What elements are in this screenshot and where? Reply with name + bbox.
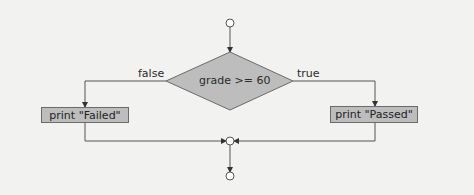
- true-branch-label: true: [297, 68, 320, 80]
- edge-passed-merge: [234, 122, 375, 141]
- end-node: [226, 172, 234, 180]
- edge-true-branch: [293, 81, 375, 106]
- false-branch-label: false: [138, 68, 164, 80]
- edge-failed-merge: [85, 122, 226, 141]
- flowchart-connectors: [0, 0, 474, 195]
- decision-label: grade >= 60: [199, 75, 270, 87]
- merge-node: [226, 137, 234, 145]
- print-failed-box: print "Failed": [41, 107, 129, 123]
- edge-false-branch: [85, 81, 166, 107]
- flowchart-canvas: grade >= 60 false true print "Failed" pr…: [0, 0, 474, 195]
- print-passed-box: print "Passed": [330, 106, 418, 123]
- start-node: [226, 19, 234, 27]
